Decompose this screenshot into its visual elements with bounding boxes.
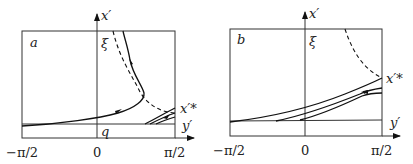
panel-a-q-marker: q: [101, 124, 109, 139]
panel-b-y-prime-label: y′: [389, 115, 400, 130]
panel-b-tick-pos: π/2: [371, 143, 392, 158]
panel-b-fixed-point-label: x′*: [386, 71, 403, 86]
panel-a-y-prime-label: y′: [181, 118, 192, 133]
panel-a-tick-neg: −π/2: [6, 145, 38, 160]
panel-a-tick-zero: 0: [93, 145, 101, 160]
panel-b-trajectory: [230, 78, 382, 122]
panel-a-arrow-icon: [129, 58, 133, 65]
panel-b-xi-marker: ξ: [309, 34, 317, 49]
panel-b: b ξ x′ x′* y′ −π/2 0 π/2: [213, 6, 403, 158]
panel-b-tick-neg: −π/2: [213, 143, 245, 158]
panel-a-xi-marker: ξ: [101, 36, 109, 51]
panel-a-fixed-point-label: x′*: [180, 101, 197, 116]
panel-b-dashed-separatrix: [345, 29, 382, 78]
panel-a-frame: [22, 31, 175, 138]
panel-b-x-prime-label: x′: [309, 6, 319, 21]
panel-a-main-trajectory: [22, 31, 144, 126]
phase-diagram-figure: a ξ q x′ x′* y′ −π/2 0 π/2 b ξ x′ x′* y′…: [0, 0, 413, 164]
panel-a: a ξ q x′ x′* y′ −π/2 0 π/2: [6, 8, 197, 160]
panel-b-tick-zero: 0: [301, 143, 309, 158]
panel-b-y-prime-line: [230, 120, 382, 121]
panel-a-label: a: [30, 35, 38, 50]
panel-b-label: b: [237, 32, 245, 47]
panel-a-tick-pos: π/2: [164, 145, 185, 160]
panel-a-dashed-separatrix: [113, 31, 175, 113]
panel-b-trajectory: [300, 93, 382, 120]
panel-a-x-prime-label: x′: [101, 8, 111, 23]
